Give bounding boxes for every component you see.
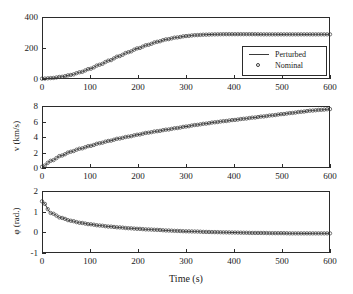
- y-tickmark: [42, 106, 46, 107]
- x-tick-label: 0: [40, 83, 45, 92]
- x-tickmark: [138, 164, 139, 168]
- x-tickmark: [138, 75, 139, 79]
- y-tickmark: [42, 122, 46, 123]
- x-tickmark: [234, 75, 235, 79]
- legend-label-perturbed: Perturbed: [271, 50, 306, 59]
- x-tick-label: 0: [40, 172, 45, 181]
- x-tickmark: [42, 164, 43, 168]
- x-tickmark: [330, 75, 331, 79]
- legend-entry-nominal: Nominal: [247, 60, 322, 71]
- x-tick-label: 600: [323, 83, 337, 92]
- x-tickmark: [42, 75, 43, 79]
- plot-area-middle: [0, 100, 353, 188]
- series-markers-nominal: [40, 200, 331, 235]
- figure-canvas: 02004000100200300400500600 Perturbed Nom…: [0, 0, 353, 294]
- y-tickmark: [42, 153, 46, 154]
- y-tickmark: [42, 212, 46, 213]
- y-tickmark: [42, 253, 46, 254]
- x-tick-label: 300: [179, 83, 193, 92]
- x-tickmark: [282, 249, 283, 253]
- series-markers-nominal: [40, 107, 331, 168]
- x-tickmark: [186, 75, 187, 79]
- x-tick-label: 500: [275, 172, 289, 181]
- x-tickmark: [90, 249, 91, 253]
- y-tickmark: [42, 168, 46, 169]
- x-tick-label: 400: [227, 83, 241, 92]
- legend-circle-icon: [247, 60, 271, 71]
- y-tickmark: [42, 232, 46, 233]
- x-tick-label: 100: [83, 257, 97, 266]
- y-axis-label-velocity: v (km/s): [11, 106, 21, 166]
- y-tick-label: 400: [6, 13, 38, 22]
- x-tick-label: 400: [227, 257, 241, 266]
- legend-line-icon: [247, 49, 271, 60]
- x-tickmark: [90, 164, 91, 168]
- legend-entry-perturbed: Perturbed: [247, 49, 322, 60]
- x-tick-label: 100: [83, 172, 97, 181]
- x-tickmark: [90, 75, 91, 79]
- x-tickmark: [186, 164, 187, 168]
- x-tick-label: 300: [179, 257, 193, 266]
- series-line-perturbed: [42, 109, 330, 167]
- x-tick-label: 600: [323, 172, 337, 181]
- x-tickmark: [234, 164, 235, 168]
- y-axis-label-phi: φ (rad.): [11, 191, 21, 251]
- y-tickmark: [42, 191, 46, 192]
- x-tick-label: 200: [131, 172, 145, 181]
- x-tickmark: [282, 164, 283, 168]
- x-tick-label: 600: [323, 257, 337, 266]
- x-tick-label: 300: [179, 172, 193, 181]
- y-tick-label: 200: [6, 44, 38, 53]
- y-tickmark: [42, 17, 46, 18]
- y-tick-label: 0: [6, 75, 38, 84]
- panel-altitude: 02004000100200300400500600 Perturbed Nom…: [0, 0, 353, 100]
- panel-velocity: 024680100200300400500600 v (km/s): [0, 100, 353, 188]
- legend-label-nominal: Nominal: [271, 61, 303, 70]
- y-tickmark: [42, 137, 46, 138]
- legend-box: Perturbed Nominal: [242, 46, 327, 76]
- x-tickmark: [42, 249, 43, 253]
- x-tick-label: 100: [83, 83, 97, 92]
- x-tick-label: 200: [131, 257, 145, 266]
- y-tickmark: [42, 48, 46, 49]
- series-line-perturbed: [42, 201, 330, 233]
- x-tick-label: 500: [275, 83, 289, 92]
- x-tickmark: [138, 249, 139, 253]
- y-tickmark: [42, 79, 46, 80]
- x-tickmark: [186, 249, 187, 253]
- x-tickmark: [234, 249, 235, 253]
- x-tick-label: 0: [40, 257, 45, 266]
- x-tickmark: [330, 249, 331, 253]
- panel-phi: -10120100200300400500600 φ (rad.) Time (…: [0, 188, 353, 294]
- x-axis-label: Time (s): [42, 273, 330, 284]
- x-tick-label: 200: [131, 83, 145, 92]
- x-tick-label: 500: [275, 257, 289, 266]
- x-tick-label: 400: [227, 172, 241, 181]
- x-tickmark: [330, 164, 331, 168]
